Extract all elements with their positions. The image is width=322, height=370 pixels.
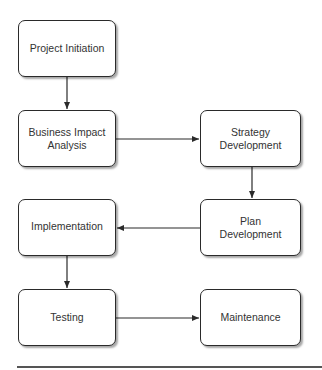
node-business-impact-analysis: Business Impact Analysis: [18, 110, 116, 167]
node-label: Project Initiation: [30, 42, 105, 55]
node-label: Business Impact Analysis: [28, 126, 105, 152]
node-strategy-development: Strategy Development: [200, 110, 301, 167]
node-label: Strategy Development: [220, 126, 282, 152]
node-plan-development: Plan Development: [200, 199, 301, 256]
node-project-initiation: Project Initiation: [18, 20, 116, 77]
node-label: Plan Development: [220, 215, 282, 241]
node-label: Implementation: [31, 220, 103, 233]
node-label: Maintenance: [220, 311, 280, 324]
bottom-rule: [17, 366, 322, 368]
node-label: Testing: [50, 311, 83, 324]
node-implementation: Implementation: [18, 199, 116, 256]
node-maintenance: Maintenance: [200, 289, 301, 346]
node-testing: Testing: [18, 289, 116, 346]
